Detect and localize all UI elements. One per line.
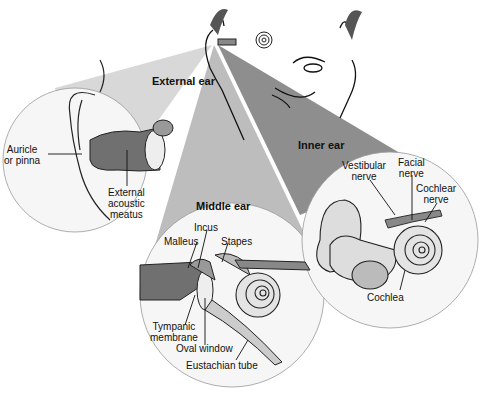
label-external-acoustic-meatus: External acoustic meatus [108, 187, 145, 220]
small-ear-structures [218, 32, 272, 48]
label-malleus: Malleus [164, 236, 198, 247]
middle-cochlea [236, 273, 280, 317]
label-oval-window: Oval window [176, 343, 233, 354]
label-vestibular-nerve: Vestibular nerve [342, 160, 386, 182]
section-label-external-ear: External ear [152, 75, 215, 87]
label-stapes: Stapes [221, 236, 252, 247]
inner-cochlea [394, 226, 442, 274]
label-facial-nerve: Facial nerve [398, 157, 425, 179]
label-cochlear-nerve: Cochlear nerve [416, 183, 456, 205]
hair [210, 9, 362, 40]
label-incus: Incus [194, 222, 218, 233]
ear-diagram-graphics [0, 0, 480, 395]
label-eustachian-tube: Eustachian tube [186, 360, 258, 371]
label-auricle: Auricle or pinna [4, 144, 40, 166]
label-tympanic-membrane: Tympanic membrane [150, 321, 198, 343]
ossicles-small [153, 120, 173, 136]
label-cochlea: Cochlea [367, 292, 404, 303]
section-label-middle-ear: Middle ear [196, 200, 250, 212]
section-label-inner-ear: Inner ear [298, 139, 344, 151]
